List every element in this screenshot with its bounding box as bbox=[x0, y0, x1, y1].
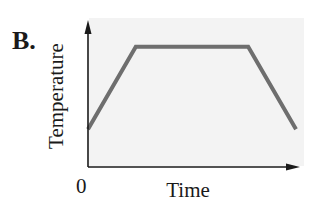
plot-area bbox=[0, 0, 311, 205]
plot-background bbox=[89, 18, 304, 166]
